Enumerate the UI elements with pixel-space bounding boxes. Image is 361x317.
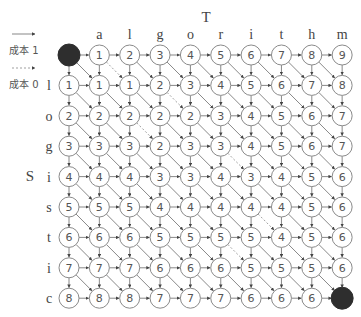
node-value: 3 xyxy=(126,140,133,153)
cost-1-edge xyxy=(197,214,213,230)
node-value: 5 xyxy=(187,231,194,244)
cost-1-edge xyxy=(167,184,183,200)
grid-node: 4 xyxy=(150,197,170,217)
grid-node: 6 xyxy=(241,45,261,65)
node-value: 2 xyxy=(126,49,133,62)
grid-node: 6 xyxy=(332,197,352,217)
cost-0-edge xyxy=(137,123,153,139)
cost-1-edge xyxy=(106,214,122,230)
grid-node: 2 xyxy=(89,106,109,126)
cost-1-edge xyxy=(258,92,274,108)
cost-1-edge xyxy=(137,92,153,108)
grid-node: 3 xyxy=(241,167,261,187)
cost-1-edge xyxy=(289,275,305,291)
node-value: 3 xyxy=(187,79,194,92)
column-label: m xyxy=(337,27,348,42)
node-value: 4 xyxy=(278,231,285,244)
cost-1-edge xyxy=(137,153,153,169)
legend-label-cost-0: 成本 0 xyxy=(9,78,39,90)
grid-node: 4 xyxy=(241,197,261,217)
column-label: a xyxy=(96,27,103,42)
grid-node: 7 xyxy=(180,288,200,308)
cost-1-edge xyxy=(319,153,335,169)
node-value: 6 xyxy=(339,171,346,184)
grid-node: 4 xyxy=(271,167,291,187)
node-value: 7 xyxy=(157,292,164,305)
node-value: 4 xyxy=(187,49,194,62)
grid-node: 8 xyxy=(332,75,352,95)
grid-node: 5 xyxy=(271,106,291,126)
grid-node: 6 xyxy=(241,288,261,308)
cost-1-edge xyxy=(258,123,274,139)
node-value: 4 xyxy=(248,201,255,214)
cost-1-edge xyxy=(258,184,274,200)
node-value: 6 xyxy=(157,262,164,275)
cost-1-edge xyxy=(197,123,213,139)
node-value: 5 xyxy=(157,231,164,244)
node-value: 4 xyxy=(278,201,285,214)
cost-1-edge xyxy=(167,214,183,230)
node-value: 6 xyxy=(308,140,315,153)
node-value: 6 xyxy=(339,262,346,275)
node-value: 3 xyxy=(96,140,103,153)
node-value: 4 xyxy=(217,171,224,184)
cost-1-edge xyxy=(258,62,274,78)
cost-1-edge xyxy=(167,123,183,139)
grid-node: 6 xyxy=(59,227,79,247)
cost-0-edge xyxy=(228,244,244,260)
node-value: 7 xyxy=(339,140,346,153)
node-value: 7 xyxy=(187,292,194,305)
cost-1-edge xyxy=(197,153,213,169)
edit-distance-diagram: 成本 1 成本 0 T S algorithm logistic 1234567… xyxy=(0,0,361,317)
grid-node: 6 xyxy=(302,288,322,308)
cost-1-edge xyxy=(228,123,244,139)
node-value: 4 xyxy=(66,171,73,184)
axis-title-t: T xyxy=(201,9,210,25)
cost-1-edge xyxy=(289,244,305,260)
cost-1-edge xyxy=(289,184,305,200)
cost-1-edge xyxy=(76,153,92,169)
node-value: 5 xyxy=(308,201,315,214)
node-value: 4 xyxy=(96,171,103,184)
cost-1-edge xyxy=(167,62,183,78)
cost-1-edge xyxy=(197,184,213,200)
node-value: 3 xyxy=(217,110,224,123)
cost-1-edge xyxy=(137,184,153,200)
cost-0-edge xyxy=(258,214,274,230)
grid-node: 3 xyxy=(211,106,231,126)
start-node xyxy=(58,44,80,66)
cost-1-edge xyxy=(137,62,153,78)
node-value: 6 xyxy=(278,79,285,92)
grid-node: 2 xyxy=(150,136,170,156)
grid-node: 6 xyxy=(332,258,352,278)
grid-node: 3 xyxy=(180,136,200,156)
cost-1-edge xyxy=(76,92,92,108)
grid-node: 9 xyxy=(332,45,352,65)
node-value: 5 xyxy=(126,201,133,214)
node-value: 6 xyxy=(339,231,346,244)
row-label: o xyxy=(46,109,53,124)
grid-node: 6 xyxy=(271,288,291,308)
end-node xyxy=(331,287,353,309)
node-value: 6 xyxy=(96,231,103,244)
grid-node: 3 xyxy=(211,136,231,156)
node-value: 6 xyxy=(217,262,224,275)
node-value: 3 xyxy=(66,140,73,153)
column-label: h xyxy=(308,27,315,42)
grid-node: 5 xyxy=(271,258,291,278)
grid-node: 5 xyxy=(241,258,261,278)
node-value: 5 xyxy=(217,231,224,244)
grid-node: 3 xyxy=(180,75,200,95)
edges xyxy=(69,55,342,298)
cost-1-edge xyxy=(167,153,183,169)
grid-node: 5 xyxy=(89,197,109,217)
grid-node: 5 xyxy=(150,227,170,247)
cost-1-edge xyxy=(289,153,305,169)
cost-1-edge xyxy=(228,275,244,291)
node-value: 2 xyxy=(157,140,164,153)
cost-1-edge xyxy=(258,244,274,260)
node-value: 4 xyxy=(217,201,224,214)
grid-node: 6 xyxy=(302,106,322,126)
column-label: o xyxy=(187,27,194,42)
cost-1-edge xyxy=(137,244,153,260)
